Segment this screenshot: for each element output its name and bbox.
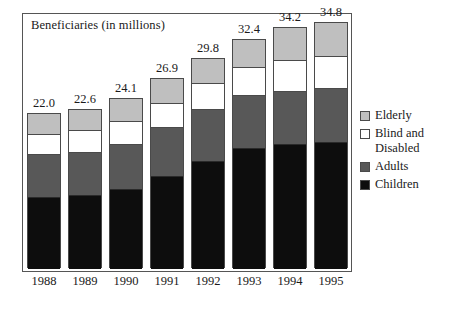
bar-segment-children[interactable] — [315, 143, 347, 269]
bars-area: 22.022.624.126.929.832.434.234.8 — [23, 14, 351, 268]
bar-segment-adults[interactable] — [274, 92, 306, 145]
bar-segment-elderly[interactable] — [192, 59, 224, 84]
bar-stack[interactable]: 22.0 — [27, 113, 61, 268]
x-tick-label: 1995 — [314, 274, 348, 289]
legend-label-children: Children — [375, 177, 419, 192]
bar-segment-adults[interactable] — [28, 155, 60, 198]
bar-segment-blind-and-disabled[interactable] — [151, 104, 183, 128]
bar-segment-blind-and-disabled[interactable] — [110, 122, 142, 145]
bar-segment-blind-and-disabled[interactable] — [315, 57, 347, 89]
bar-segment-adults[interactable] — [110, 145, 142, 190]
bar-total-label: 26.9 — [156, 61, 178, 76]
bar-group[interactable]: 32.4 — [232, 39, 266, 268]
bar-segment-blind-and-disabled[interactable] — [233, 68, 265, 96]
bar-segment-children[interactable] — [192, 162, 224, 269]
bar-group[interactable]: 26.9 — [150, 78, 184, 268]
x-axis: 19881989199019911992199319941995 — [23, 274, 351, 298]
legend-swatch-blind-and-disabled-icon — [360, 129, 370, 139]
bar-group[interactable]: 24.1 — [109, 98, 143, 268]
bar-stack[interactable]: 34.2 — [273, 27, 307, 268]
bar-total-label: 29.8 — [197, 41, 219, 56]
x-tick-label: 1991 — [150, 274, 184, 289]
bar-segment-elderly[interactable] — [151, 79, 183, 104]
bar-segment-children[interactable] — [69, 196, 101, 269]
bar-segment-elderly[interactable] — [110, 99, 142, 122]
bar-group[interactable]: 22.0 — [27, 113, 61, 268]
legend-item-children[interactable]: Children — [360, 177, 455, 192]
legend-label-blind-and-disabled: Blind andDisabled — [375, 126, 424, 156]
bar-total-label: 22.0 — [33, 96, 55, 111]
x-tick-label: 1988 — [27, 274, 61, 289]
bar-segment-children[interactable] — [28, 198, 60, 269]
x-tick-label: 1993 — [232, 274, 266, 289]
chart-legend: Elderly Blind andDisabled Adults Childre… — [360, 108, 455, 195]
bar-segment-children[interactable] — [274, 145, 306, 269]
bar-total-label: 22.6 — [74, 92, 96, 107]
legend-label-line-1: Blind and — [375, 126, 424, 140]
bar-segment-elderly[interactable] — [315, 23, 347, 56]
stacked-bar-chart: Beneficiaries (in millions) 22.022.624.1… — [0, 0, 455, 310]
bar-segment-children[interactable] — [110, 190, 142, 269]
legend-label-elderly: Elderly — [375, 108, 412, 123]
bar-segment-elderly[interactable] — [69, 110, 101, 132]
bar-group[interactable]: 34.8 — [314, 22, 348, 268]
bar-total-label: 24.1 — [115, 81, 137, 96]
bar-total-label: 34.2 — [279, 10, 301, 25]
bar-total-label: 34.8 — [320, 5, 342, 20]
bar-total-label: 32.4 — [238, 22, 260, 37]
bar-segment-blind-and-disabled[interactable] — [28, 135, 60, 155]
bar-stack[interactable]: 29.8 — [191, 58, 225, 268]
bar-stack[interactable]: 32.4 — [232, 39, 266, 268]
bar-segment-children[interactable] — [151, 177, 183, 269]
x-tick-label: 1989 — [68, 274, 102, 289]
legend-swatch-children-icon — [360, 180, 370, 190]
bar-group[interactable]: 22.6 — [68, 109, 102, 268]
bar-segment-adults[interactable] — [315, 89, 347, 143]
legend-item-elderly[interactable]: Elderly — [360, 108, 455, 123]
bar-segment-adults[interactable] — [192, 110, 224, 162]
legend-item-adults[interactable]: Adults — [360, 159, 455, 174]
bar-group[interactable]: 34.2 — [273, 27, 307, 268]
bar-segment-elderly[interactable] — [28, 114, 60, 135]
bar-stack[interactable]: 24.1 — [109, 98, 143, 268]
legend-swatch-elderly-icon — [360, 111, 370, 121]
bar-segment-blind-and-disabled[interactable] — [69, 131, 101, 152]
bar-segment-children[interactable] — [233, 149, 265, 269]
bar-segment-blind-and-disabled[interactable] — [192, 84, 224, 110]
bar-group[interactable]: 29.8 — [191, 58, 225, 268]
legend-label-adults: Adults — [375, 159, 408, 174]
bar-segment-elderly[interactable] — [274, 28, 306, 61]
x-tick-label: 1990 — [109, 274, 143, 289]
legend-swatch-adults-icon — [360, 162, 370, 172]
bar-stack[interactable]: 34.8 — [314, 22, 348, 268]
bar-stack[interactable]: 26.9 — [150, 78, 184, 268]
bar-segment-adults[interactable] — [151, 128, 183, 177]
legend-label-line-2: Disabled — [375, 141, 419, 155]
bar-segment-adults[interactable] — [233, 96, 265, 149]
legend-item-blind-and-disabled[interactable]: Blind andDisabled — [360, 126, 455, 156]
x-tick-label: 1994 — [273, 274, 307, 289]
bar-segment-adults[interactable] — [69, 153, 101, 197]
bar-segment-elderly[interactable] — [233, 40, 265, 68]
bar-segment-blind-and-disabled[interactable] — [274, 61, 306, 92]
bar-stack[interactable]: 22.6 — [68, 109, 102, 268]
x-tick-label: 1992 — [191, 274, 225, 289]
